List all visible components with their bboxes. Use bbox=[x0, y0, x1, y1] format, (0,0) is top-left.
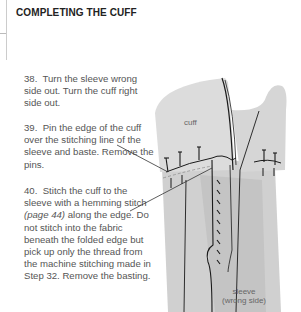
cuff-sleeve-illustration bbox=[0, 0, 301, 312]
sleeve-label-line1: sleeve bbox=[222, 287, 266, 296]
sleeve-label-line2: (wrong side) bbox=[222, 296, 266, 305]
cuff-right-panel bbox=[232, 85, 287, 172]
cuff-label: cuff bbox=[184, 118, 197, 127]
sleeve-label: sleeve (wrong side) bbox=[222, 287, 266, 305]
